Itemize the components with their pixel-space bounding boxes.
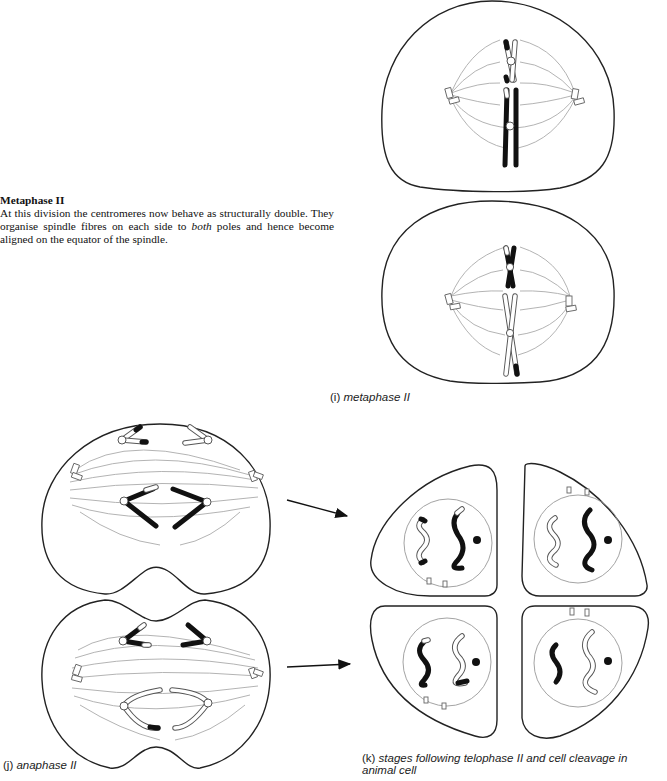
arrow-bottom bbox=[287, 664, 350, 667]
metaphase-ii-cell-top bbox=[382, 1, 614, 192]
arrow-top bbox=[287, 500, 347, 516]
caption-j: (j) anaphase II bbox=[3, 759, 77, 771]
daughter-cell-top-left bbox=[371, 465, 497, 596]
anaphase-ii-cell-top bbox=[42, 424, 270, 594]
daughter-cell-top-right bbox=[522, 464, 647, 596]
caption-i: (i) metaphase II bbox=[330, 391, 410, 403]
caption-k-label: (k) bbox=[362, 752, 379, 764]
caption-j-label: (j) bbox=[3, 759, 16, 771]
caption-i-label: (i) bbox=[330, 391, 343, 403]
caption-k: (k) stages following telophase II and ce… bbox=[362, 752, 662, 776]
caption-k-text: stages following telophase II and cell c… bbox=[362, 752, 627, 776]
anaphase-ii-cell-bottom bbox=[42, 600, 270, 768]
daughter-cell-bottom-right bbox=[522, 606, 648, 738]
metaphase-ii-cell-bottom bbox=[382, 201, 614, 383]
daughter-cell-bottom-left bbox=[371, 606, 497, 737]
caption-j-text: anaphase II bbox=[16, 759, 76, 771]
caption-i-text: metaphase II bbox=[343, 391, 409, 403]
